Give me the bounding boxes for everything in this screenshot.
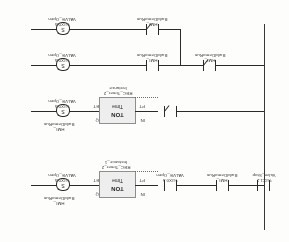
rung1-wire-mid (69, 29, 146, 30)
ladder-diagram-canvas: S %IX0.5 VALVE_Open HMI_ BuildDemoRun S … (0, 0, 289, 242)
ton-block-sub: Time (100, 104, 135, 110)
rung1-contact-label: HMI_ BuildDemoRun (121, 17, 183, 27)
rung3-wire-to-rail (176, 111, 264, 112)
rung1-coil-label: %IX0.5 VALVE_Open (31, 17, 93, 27)
rung3-q-out-label: HMI_ BuildDemoRun (25, 122, 93, 132)
rung4-wire-mid (176, 185, 216, 186)
rung3-instance-label: REC_Timer_2 Instance (87, 86, 149, 96)
rung2-wire-right (158, 65, 203, 66)
rung4-wire-left (31, 185, 57, 186)
rung4-pin-in: IN (141, 192, 145, 197)
rung2-contact-a-label: HMI_ BuildDemoRun (121, 53, 183, 63)
rung3-in-wire (135, 111, 158, 112)
rung4-stop-label: %IX1.2 Valve_Stop (235, 173, 289, 183)
rung3-wire-coil-to-fb (69, 111, 101, 112)
rung2-wire-to-rail (215, 65, 264, 66)
contact-slash (164, 105, 176, 117)
rung3-pin-pt: PT (139, 104, 145, 109)
rung3-ton-block[interactable]: TON Time (99, 97, 136, 124)
rung4-instance-label: REC_Timer_2 Instance_1 (83, 160, 149, 170)
rung1-wire-right (158, 29, 181, 30)
ton-block-type: TON (100, 112, 135, 118)
rung3-pin-in: IN (141, 118, 145, 123)
rung3-wire-left (31, 111, 57, 112)
rung2-coil-label: %IX0.5 VALVE_Open (31, 53, 93, 63)
coil-symbol: S (56, 109, 70, 115)
ton-block-sub: Time (100, 178, 135, 184)
rung3-pin-et: ET (93, 104, 99, 109)
rung4-pin-et: ET (93, 178, 99, 183)
rung3-pin-q: Q (96, 118, 99, 123)
rung4-q-out-label: HMI_ BuildDemoRun (25, 196, 93, 206)
rung2-wire-mid (69, 65, 146, 66)
coil-symbol: S (56, 27, 70, 33)
ton-block-type: TON (100, 186, 135, 192)
rung2-contact-b-label: HMI_ BuildDemoRun (179, 53, 241, 63)
rung1-wire-left (31, 29, 57, 30)
rung3-coil-label: %IX0.5 VALVE_Open (31, 99, 93, 109)
coil-symbol: S (56, 183, 70, 189)
rung4-ton-block[interactable]: TON Time (99, 171, 136, 198)
power-rail-right (264, 24, 265, 230)
rung4-coil-label: %IX0.5 VALVE_Open (31, 173, 93, 183)
rung3-pt-wire (135, 97, 158, 98)
rung4-wire-coil-to-fb (69, 185, 101, 186)
rung2-wire-left (31, 65, 57, 66)
rung4-pin-q: Q (96, 192, 99, 197)
rung4-in-wire (135, 185, 158, 186)
coil-symbol: S (56, 63, 70, 69)
